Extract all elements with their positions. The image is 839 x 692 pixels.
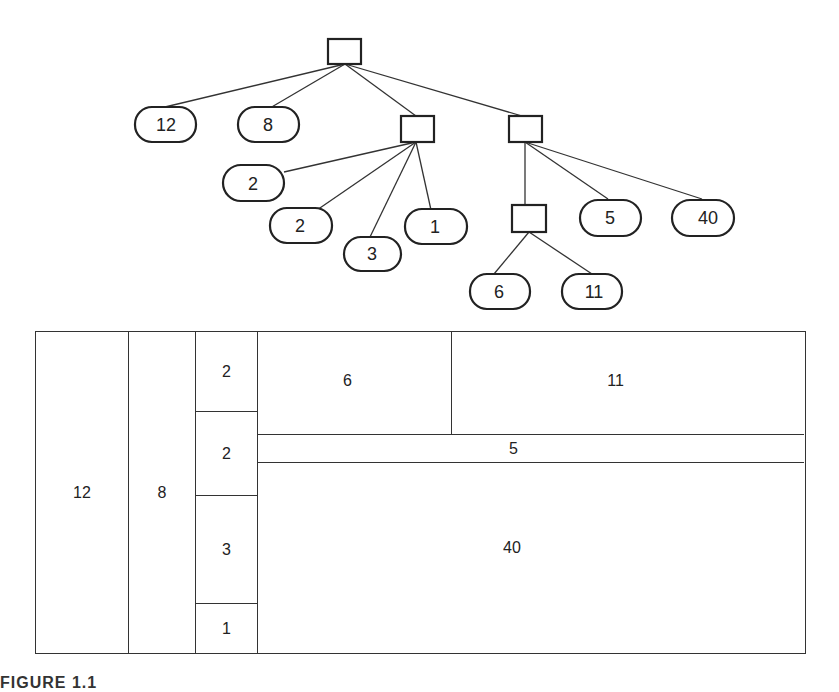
cell-label: 1 bbox=[222, 620, 231, 638]
treemap-cell-12: 12 bbox=[36, 332, 129, 653]
root-node bbox=[328, 39, 361, 64]
treemap-cell-6: 6 bbox=[258, 332, 452, 435]
leaf-label: 1 bbox=[430, 217, 440, 237]
tree-diagram: 12 8 2 2 3 1 5 40 6 11 bbox=[0, 0, 839, 320]
treemap-cell-11: 11 bbox=[452, 332, 804, 435]
treemap-cell-5: 5 bbox=[258, 435, 804, 463]
treemap-cell-2b: 2 bbox=[196, 412, 258, 496]
cell-label: 2 bbox=[222, 363, 231, 381]
cell-label: 11 bbox=[607, 372, 624, 390]
cell-label: 6 bbox=[343, 372, 352, 390]
leaf-label: 3 bbox=[367, 244, 377, 264]
internal-node-a bbox=[401, 116, 434, 142]
cell-label: 8 bbox=[158, 484, 167, 502]
treemap-cell-1: 1 bbox=[196, 604, 258, 653]
leaf-label: 40 bbox=[698, 208, 718, 228]
treemap-cell-3: 3 bbox=[196, 496, 258, 604]
leaf-label: 6 bbox=[494, 282, 504, 302]
treemap-cell-40: 40 bbox=[258, 463, 804, 653]
treemap-cell-8: 8 bbox=[129, 332, 196, 653]
cell-label: 3 bbox=[222, 541, 231, 559]
leaf-label: 12 bbox=[156, 115, 176, 135]
leaf-label: 11 bbox=[585, 282, 604, 302]
leaf-label: 5 bbox=[605, 208, 615, 228]
internal-node-c bbox=[512, 205, 546, 232]
leaf-label: 2 bbox=[248, 174, 258, 194]
cell-label: 12 bbox=[73, 484, 91, 502]
leaf-label: 8 bbox=[263, 115, 273, 135]
treemap-cell-2a: 2 bbox=[196, 332, 258, 412]
cell-label: 2 bbox=[222, 445, 231, 463]
internal-node-b bbox=[509, 116, 542, 142]
treemap: 12 8 2 2 3 1 6 11 5 40 bbox=[35, 331, 806, 654]
leaf-label: 2 bbox=[295, 216, 305, 236]
figure-caption: FIGURE 1.1 bbox=[0, 674, 97, 692]
cell-label: 40 bbox=[503, 539, 521, 557]
cell-label: 5 bbox=[509, 440, 518, 458]
